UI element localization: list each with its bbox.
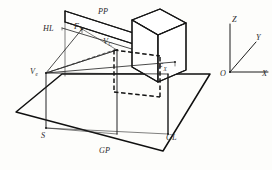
label-center-of-vision-sub: C	[108, 41, 112, 47]
label-eye-point-sub: e	[35, 71, 38, 77]
axis-y-line	[230, 42, 256, 72]
coordinate-axes	[229, 24, 268, 73]
label-axis-origin: O	[220, 69, 226, 78]
point-eye	[45, 72, 47, 74]
label-center-of-vision: V C	[103, 37, 112, 47]
label-station-point: S	[41, 131, 45, 140]
object-box	[132, 9, 186, 82]
perspective-projection-figure: PP HL F Y V C V e F X S GP GL Z Y	[0, 0, 272, 170]
point-center-of-vision	[116, 49, 118, 51]
label-axis-x: X	[261, 69, 268, 78]
label-picture-plane: PP	[97, 7, 108, 16]
vertical-construction-plane	[46, 50, 117, 134]
label-axis-y: Y	[256, 33, 262, 42]
label-axis-z: Z	[232, 15, 237, 24]
ground-plane-outline	[16, 74, 210, 151]
label-horizon-line: HL	[42, 24, 54, 33]
label-ground-plane: GP	[99, 146, 110, 155]
figure-canvas: PP HL F Y V C V e F X S GP GL Z Y	[0, 0, 272, 170]
label-ground-line: GL	[166, 133, 177, 142]
point-vanishing-x	[174, 61, 176, 63]
point-station	[45, 127, 47, 129]
label-eye-point: V e	[30, 67, 38, 77]
axes-origin-point	[229, 71, 231, 73]
